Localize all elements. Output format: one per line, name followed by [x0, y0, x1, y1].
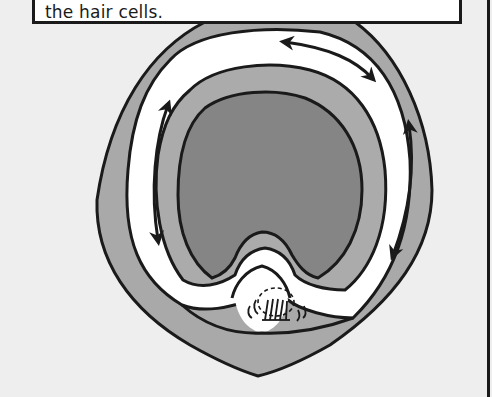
cochlea-diagram [0, 0, 492, 397]
panel-border-right [487, 0, 490, 397]
caption-text: the hair cells. [45, 3, 163, 21]
caption-box: the hair cells. [32, 0, 462, 24]
